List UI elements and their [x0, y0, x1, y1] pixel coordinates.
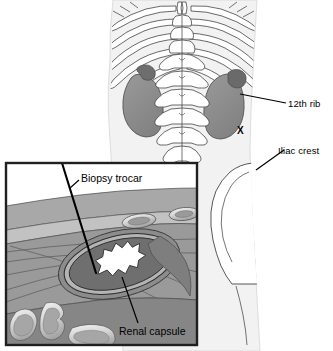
adrenal-gland-right	[228, 69, 246, 88]
label-renal-capsule: Renal capsule	[119, 325, 186, 337]
label-iliac-crest: Iliac crest	[278, 145, 319, 156]
figure-container: 12th rib Iliac crest X Biopsy trocar Ren…	[0, 0, 333, 351]
biopsy-site-marker: X	[237, 125, 244, 136]
anatomical-illustration	[0, 0, 333, 351]
inset-cross-section	[6, 163, 200, 347]
label-12th-rib: 12th rib	[288, 98, 321, 109]
label-biopsy-trocar: Biopsy trocar	[81, 172, 142, 184]
